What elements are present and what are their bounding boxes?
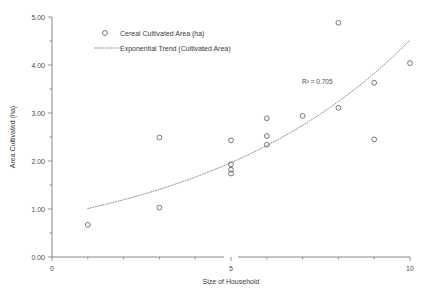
data-point [336,105,341,110]
x-axis-ticks [52,257,410,261]
y-axis-tick-label: 4.00 [31,62,45,69]
y-axis-ticks [48,17,52,257]
data-point [264,134,269,139]
legend-label-trend: Exponential Trend (Cultivated Area) [120,45,231,53]
y-axis-tick-label: 1.00 [31,206,45,213]
x-axis-tick-labels: 0510 [50,265,414,272]
y-axis-tick-label: 2.00 [31,158,45,165]
legend: Cereal Cultivated Area (ha) Exponential … [95,30,231,53]
data-point [264,116,269,121]
legend-label-scatter: Cereal Cultivated Area (ha) [120,30,204,38]
data-point [408,61,413,66]
data-point [372,80,377,85]
data-point [157,135,162,140]
scatter-plot: 0.001.002.003.004.005.00 0510 R² = 0.705… [0,0,424,302]
y-axis-title: Area Cultivated (ha) [9,106,17,168]
data-point [229,138,234,143]
x-axis-tick-label: 5 [229,265,233,272]
y-axis-tick-labels: 0.001.002.003.004.005.00 [31,14,45,261]
y-axis-tick-label: 5.00 [31,14,45,21]
x-axis-tick-label: 10 [406,265,414,272]
data-point [300,113,305,118]
data-point [372,137,377,142]
r-squared-annotation: R² = 0.705 [302,78,333,85]
x-axis-title: Size of Household [203,278,260,285]
y-axis-tick-label: 0.00 [31,254,45,261]
data-point [85,222,90,227]
x-axis-tick-label: 0 [50,265,54,272]
chart-container: 0.001.002.003.004.005.00 0510 R² = 0.705… [0,0,424,302]
data-point [157,205,162,210]
data-point [336,20,341,25]
y-axis-tick-label: 3.00 [31,110,45,117]
legend-marker-scatter [103,31,108,36]
exponential-trend-line [88,40,410,208]
